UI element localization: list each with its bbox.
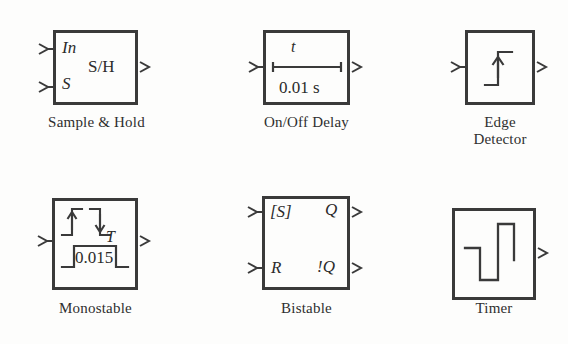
monostable-input-port xyxy=(37,234,51,248)
bistable-output-port-not-q xyxy=(350,261,364,275)
rising-edge-step-icon xyxy=(482,44,518,90)
sample-hold-body-label: S/H xyxy=(88,57,114,77)
edge-detector-caption: Edge Detector xyxy=(420,114,568,148)
monostable-time-value: 0.015 xyxy=(75,248,113,268)
on-off-delay-time-symbol: t xyxy=(291,38,295,56)
on-off-delay-input-port xyxy=(248,60,262,74)
sample-hold-input-label-s: S xyxy=(62,74,71,94)
on-off-delay-time-value: 0.01 s xyxy=(279,78,320,98)
edge-detector-output-port xyxy=(535,60,549,74)
sample-hold-caption: Sample & Hold xyxy=(9,114,184,131)
edge-detector-input-port xyxy=(450,60,464,74)
bistable-input-port-reset xyxy=(247,261,261,275)
timer-square-wave-icon xyxy=(462,216,528,292)
monostable-caption: Monostable xyxy=(8,300,183,317)
sample-hold-input-port-in xyxy=(38,42,52,56)
on-off-delay-dimension-line xyxy=(271,60,343,74)
bistable-output-label-not-q: !Q xyxy=(317,257,335,277)
bistable-caption: Bistable xyxy=(219,300,394,317)
bistable-output-label-q: Q xyxy=(325,200,337,220)
sample-hold-output-port xyxy=(138,60,152,74)
bistable-input-port-set xyxy=(247,205,261,219)
bistable-input-label-set: [S] xyxy=(270,202,292,222)
bistable-output-port-q xyxy=(350,205,364,219)
timer-caption: Timer xyxy=(414,300,568,317)
function-block-figure: In S S/H Sample & Hold t 0.01 xyxy=(0,0,568,344)
on-off-delay-output-port xyxy=(350,60,364,74)
timer-output-port xyxy=(536,246,550,260)
monostable-output-port xyxy=(138,234,152,248)
sample-hold-input-port-s xyxy=(38,80,52,94)
sample-hold-input-label-in: In xyxy=(62,38,76,58)
on-off-delay-caption: On/Off Delay xyxy=(219,114,394,131)
bistable-input-label-reset: R xyxy=(271,258,281,278)
